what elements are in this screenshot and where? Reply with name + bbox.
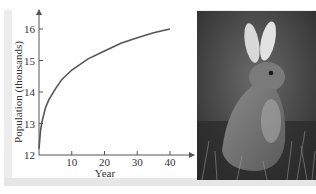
x-tick-label: 30: [132, 156, 144, 168]
x-tick-label: 40: [165, 156, 177, 168]
rabbit-photo: [197, 11, 316, 180]
y-axis-label: Population (thousands): [12, 41, 25, 143]
y-tick-label: 16: [24, 23, 36, 35]
rabbit-image: [197, 11, 316, 180]
y-tick-label: 13: [24, 118, 36, 130]
y-tick-label: 12: [24, 149, 35, 161]
y-tick-label: 14: [24, 86, 36, 98]
y-tick-label: 15: [24, 55, 36, 67]
x-axis-label: Year: [95, 167, 116, 179]
x-tick-label: 10: [66, 156, 78, 168]
x-ticks: 10203040: [66, 151, 176, 168]
population-curve: [39, 29, 170, 149]
population-chart: 10203040 1213141516 Year Population (tho…: [0, 0, 200, 194]
